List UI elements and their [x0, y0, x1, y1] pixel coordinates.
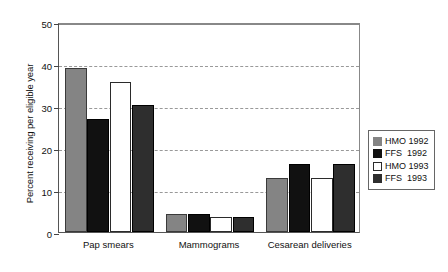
x-axis-label-mammograms: Mammograms — [179, 239, 240, 250]
y-tick-mark-0 — [54, 234, 59, 235]
legend-label: FFS 1992 — [385, 149, 427, 158]
bar — [210, 217, 232, 232]
y-tick-label-40: 40 — [41, 61, 52, 72]
bars-layer — [59, 24, 359, 232]
y-tick-label-30: 30 — [41, 103, 52, 114]
bar — [110, 82, 132, 232]
legend-swatch-icon — [373, 137, 382, 146]
bar — [233, 217, 255, 232]
bar — [333, 164, 355, 232]
bar — [166, 214, 188, 232]
y-tick-label-50: 50 — [41, 19, 52, 30]
legend-item: HMO 1993 — [373, 160, 429, 173]
y-tick-label-20: 20 — [41, 145, 52, 156]
legend-swatch-icon — [373, 174, 382, 183]
legend-item: FFS 1992 — [373, 148, 429, 161]
legend-entries: HMO 1992FFS 1992HMO 1993FFS 1993 — [373, 135, 429, 185]
x-axis-category-labels: Pap smearsMammogramsCesarean deliveries — [58, 239, 360, 259]
legend: HMO 1992FFS 1992HMO 1993FFS 1993 — [368, 130, 435, 190]
plot-area: 01020304050 — [58, 23, 360, 233]
bar — [311, 178, 333, 232]
legend-item: HMO 1992 — [373, 135, 429, 148]
y-tick-label-0: 0 — [47, 229, 52, 240]
bar — [266, 178, 288, 232]
bar — [289, 164, 311, 232]
legend-label: HMO 1993 — [385, 162, 429, 171]
bar-chart: Percent receiving per eligible year 0102… — [0, 0, 448, 272]
legend-label: FFS 1993 — [385, 174, 427, 183]
x-axis-label-cesarean-deliveries: Cesarean deliveries — [268, 239, 352, 250]
bar — [65, 68, 87, 232]
legend-label: HMO 1992 — [385, 137, 429, 146]
legend-swatch-icon — [373, 149, 382, 158]
y-axis-title: Percent receiving per eligible year — [24, 34, 35, 234]
legend-item: FFS 1993 — [373, 173, 429, 186]
y-tick-label-10: 10 — [41, 187, 52, 198]
bar — [87, 119, 109, 232]
bar — [188, 214, 210, 232]
legend-swatch-icon — [373, 162, 382, 171]
x-axis-label-pap-smears: Pap smears — [83, 239, 134, 250]
bar — [132, 105, 154, 232]
